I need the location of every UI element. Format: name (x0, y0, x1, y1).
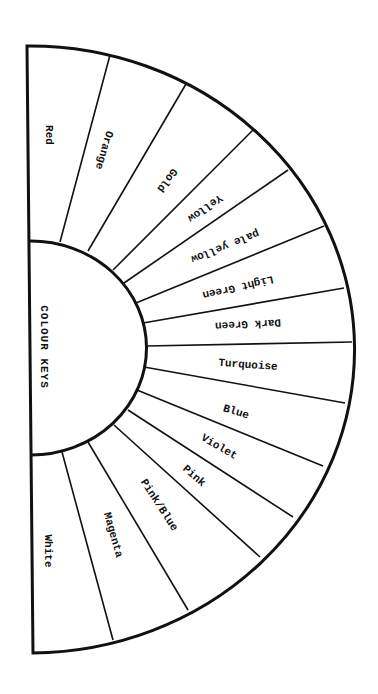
segment-divider (124, 170, 288, 283)
segment-label-pink-blue: Pink/Blue (138, 477, 181, 534)
segment-label-yellow: Yellow (185, 192, 225, 225)
segment-divider (144, 367, 345, 403)
segment-divider (114, 425, 260, 557)
segment-label-turquoise: Turquoise (218, 357, 279, 373)
segment-label-pale-yellow: pale yellow (189, 227, 261, 265)
segment-label-light-green: Light Green (201, 273, 274, 301)
segment-label-violet: Violet (199, 432, 239, 462)
outer-arc (27, 46, 355, 653)
segment-divider (146, 342, 352, 346)
segment-label-dark-green: Dark Green (215, 316, 282, 331)
segment-label-magenta: Magenta (101, 511, 125, 559)
segment-divider (143, 288, 344, 323)
segment-label-pink: Pink (180, 463, 208, 490)
segment-label-orange: Orange (93, 129, 116, 171)
segment-label-gold: Gold (154, 166, 179, 194)
segment-label-red: Red (43, 125, 55, 145)
colour-key-wheel: RedOrangeGoldYellowpale yellowLight Gree… (0, 0, 378, 694)
segment-label-blue: Blue (222, 402, 251, 421)
segment-label-white: White (42, 534, 54, 567)
segment-divider (62, 452, 113, 640)
diagram-title: COLOUR KEYS (38, 305, 50, 389)
